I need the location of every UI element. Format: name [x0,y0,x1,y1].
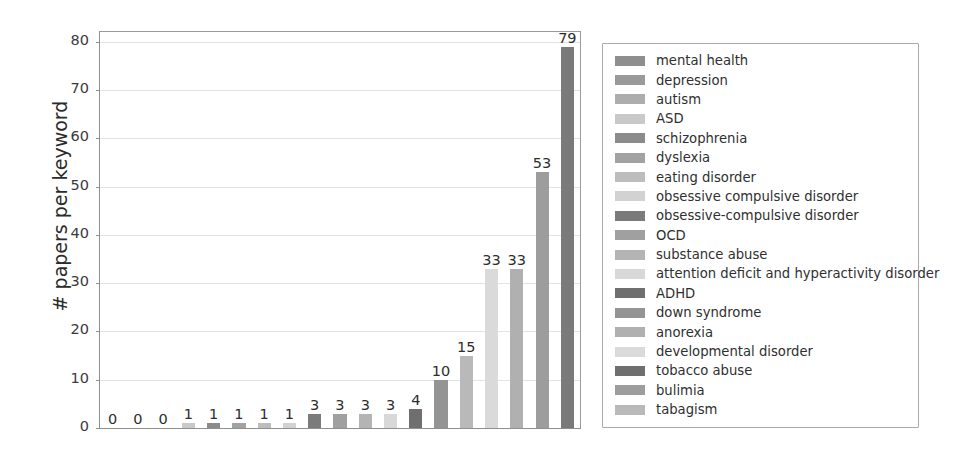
bar[interactable] [182,423,195,428]
legend-item[interactable]: dyslexia [611,148,910,167]
bar-slot[interactable]: 1 [277,32,302,428]
bar-slot[interactable]: 0 [125,32,150,428]
bar[interactable] [434,380,447,428]
bar-chart-figure: # papers per keyword 01020304050607080 0… [0,0,961,450]
bar-slot[interactable]: 33 [504,32,529,428]
bar[interactable] [308,414,321,428]
legend-swatch [615,385,645,395]
bar[interactable] [258,423,271,428]
legend-item[interactable]: anorexia [611,322,910,341]
legend-item[interactable]: bulimia [611,381,910,400]
legend-item[interactable]: depression [611,70,910,89]
y-axis-tick-label: 30 [31,273,89,289]
bar[interactable] [460,356,473,428]
legend-item[interactable]: ASD [611,109,910,128]
y-axis-tick-label: 10 [31,370,89,386]
legend-item[interactable]: tobacco abuse [611,361,910,380]
legend-swatch [615,75,645,85]
bar-slot[interactable]: 1 [201,32,226,428]
legend-item[interactable]: substance abuse [611,245,910,264]
bar[interactable] [207,423,220,428]
bar[interactable] [510,269,523,428]
bar-slot[interactable]: 3 [302,32,327,428]
legend-swatch [615,366,645,376]
legend-item-label: depression [656,74,728,87]
bar-slot[interactable]: 1 [226,32,251,428]
legend-swatch [615,94,645,104]
bar-slot[interactable]: 79 [555,32,580,428]
legend-swatch [615,153,645,163]
legend-item[interactable]: attention deficit and hyperactivity diso… [611,264,910,283]
legend-item-label: obsessive-compulsive disorder [656,209,859,222]
bar[interactable] [333,414,346,428]
legend-swatch [615,56,645,66]
bar[interactable] [561,47,574,429]
legend-item-label: tabagism [656,403,717,416]
legend-item-label: schizophrenia [656,132,747,145]
bar-value-label: 79 [547,31,587,45]
legend: mental healthdepressionautismASDschizoph… [602,43,919,428]
legend-item-label: anorexia [656,326,713,339]
bar-slot[interactable]: 3 [353,32,378,428]
bar-slot[interactable]: 3 [378,32,403,428]
legend-swatch [615,211,645,221]
legend-item-label: tobacco abuse [656,364,752,377]
bar-slot[interactable]: 3 [327,32,352,428]
legend-item-label: attention deficit and hyperactivity diso… [656,267,939,280]
y-axis-title: # papers per keyword [49,0,71,416]
bar[interactable] [232,423,245,428]
legend-item[interactable]: ADHD [611,284,910,303]
bar[interactable] [485,269,498,428]
legend-item[interactable]: eating disorder [611,167,910,186]
legend-item-label: developmental disorder [656,345,813,358]
legend-item[interactable]: tabagism [611,400,910,419]
legend-item[interactable]: developmental disorder [611,342,910,361]
bar-slot[interactable]: 1 [176,32,201,428]
legend-swatch [615,230,645,240]
legend-item[interactable]: obsessive compulsive disorder [611,187,910,206]
bar[interactable] [359,414,372,428]
legend-item-label: obsessive compulsive disorder [656,190,858,203]
bar-slot[interactable]: 15 [454,32,479,428]
bar-slot[interactable]: 0 [151,32,176,428]
legend-item[interactable]: mental health [611,51,910,70]
legend-swatch [615,172,645,182]
bar[interactable] [384,414,397,428]
bar[interactable] [409,409,422,428]
legend-swatch [615,114,645,124]
y-axis-tick-label: 60 [31,128,89,144]
legend-swatch [615,250,645,260]
legend-item-label: ASD [656,112,684,125]
legend-swatch [615,405,645,415]
legend-item-label: eating disorder [656,171,756,184]
bar-slot[interactable]: 10 [428,32,453,428]
legend-item-label: mental health [656,54,748,67]
legend-swatch [615,327,645,337]
y-axis-tick-label: 40 [31,225,89,241]
bar-slot[interactable]: 53 [529,32,554,428]
legend-item-label: ADHD [656,287,695,300]
legend-swatch [615,133,645,143]
legend-swatch [615,308,645,318]
y-axis-tick-mark [96,428,100,429]
y-axis-tick-label: 70 [31,80,89,96]
legend-item[interactable]: obsessive-compulsive disorder [611,206,910,225]
legend-item[interactable]: autism [611,90,910,109]
bar-series: 0001111133334101533335379 [100,32,580,428]
legend-swatch [615,288,645,298]
legend-item[interactable]: schizophrenia [611,129,910,148]
bar[interactable] [536,172,549,428]
y-axis-tick-label: 20 [31,321,89,337]
legend-swatch [615,347,645,357]
bar-slot[interactable]: 0 [100,32,125,428]
legend-item-label: OCD [656,229,686,242]
y-axis-tick-label: 50 [31,177,89,193]
bar[interactable] [283,423,296,428]
legend-swatch [615,269,645,279]
legend-item[interactable]: OCD [611,226,910,245]
legend-item[interactable]: down syndrome [611,303,910,322]
legend-item-label: down syndrome [656,306,761,319]
bar-slot[interactable]: 33 [479,32,504,428]
bar-slot[interactable]: 1 [252,32,277,428]
y-axis-tick-label: 0 [31,418,89,434]
